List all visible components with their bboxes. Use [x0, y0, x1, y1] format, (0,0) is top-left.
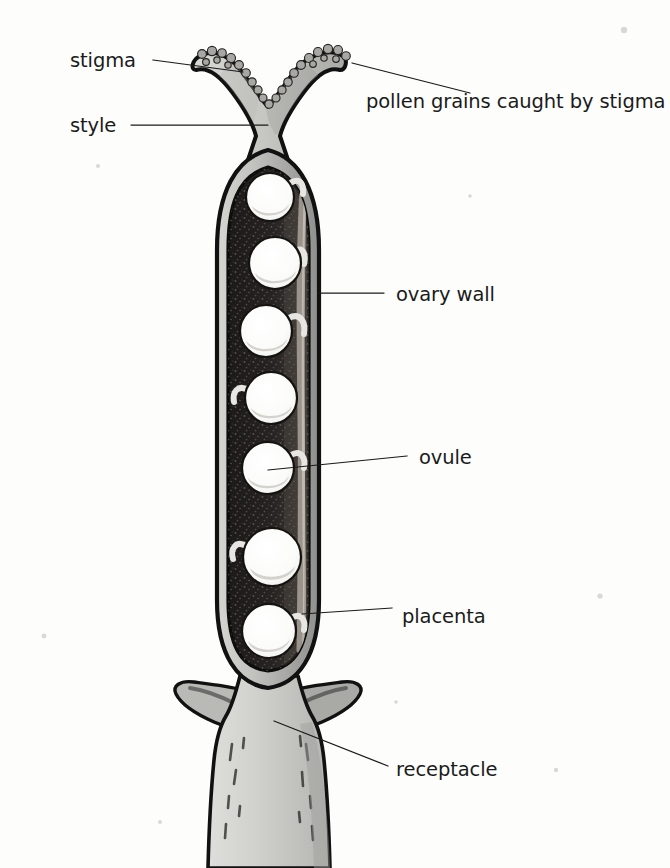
label-ovary-wall: ovary wall	[396, 283, 495, 306]
ovule	[245, 372, 297, 424]
label-ovule: ovule	[419, 446, 472, 469]
receptacle	[175, 676, 361, 868]
label-style: style	[70, 114, 116, 137]
ovule	[246, 173, 294, 221]
label-stigma: stigma	[70, 49, 136, 72]
ovule	[242, 604, 296, 658]
diagram-canvas: stigma style pollen grains caught by sti…	[0, 0, 670, 868]
carpel-diagram: stigma style pollen grains caught by sti…	[0, 0, 670, 868]
style-and-stigma	[193, 44, 351, 160]
leader-pollen-grains	[352, 63, 470, 93]
label-placenta: placenta	[402, 605, 486, 628]
ovule	[243, 528, 301, 586]
ovary	[217, 150, 319, 688]
labels: stigma style pollen grains caught by sti…	[70, 49, 665, 781]
ovule	[240, 305, 292, 357]
label-receptacle: receptacle	[396, 758, 497, 781]
label-pollen-grains: pollen grains caught by stigma	[366, 90, 665, 113]
ovule	[249, 237, 301, 289]
